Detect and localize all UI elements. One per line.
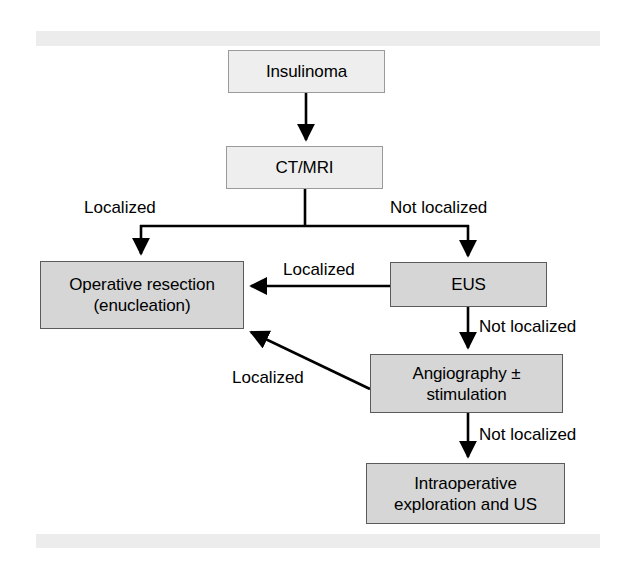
figure-canvas: Insulinoma CT/MRI Operative resection (e… xyxy=(0,0,629,564)
node-eus[interactable]: EUS xyxy=(390,262,547,307)
node-intraoperative-exploration[interactable]: Intraoperative exploration and US xyxy=(366,463,565,524)
edge-label-ctmri-not-localized: Not localized xyxy=(390,198,487,218)
node-operative-resection[interactable]: Operative resection (enucleation) xyxy=(40,261,244,329)
node-operative-resection-line2: (enucleation) xyxy=(94,296,191,315)
node-angiography-line1: Angiography ± xyxy=(412,364,520,383)
node-angiography-label: Angiography ± stimulation xyxy=(412,363,520,405)
node-angiography-line2: stimulation xyxy=(426,385,506,404)
node-intraoperative-line1: Intraoperative xyxy=(414,474,517,493)
node-ctmri[interactable]: CT/MRI xyxy=(226,146,383,189)
node-ctmri-label: CT/MRI xyxy=(276,157,334,178)
node-operative-resection-line1: Operative resection xyxy=(69,275,215,294)
bottom-background-band xyxy=(36,534,600,548)
node-insulinoma[interactable]: Insulinoma xyxy=(228,50,385,93)
edge-label-angiography-localized: Localized xyxy=(232,368,304,388)
node-intraoperative-exploration-label: Intraoperative exploration and US xyxy=(394,473,537,515)
node-eus-label: EUS xyxy=(451,274,486,295)
edge-label-eus-not-localized: Not localized xyxy=(479,317,576,337)
edge-label-ctmri-localized: Localized xyxy=(84,198,156,218)
top-background-band xyxy=(36,31,600,46)
edge-label-eus-localized: Localized xyxy=(283,260,355,280)
edge-label-angiography-not-localized: Not localized xyxy=(479,425,576,445)
node-operative-resection-label: Operative resection (enucleation) xyxy=(69,274,215,316)
node-angiography[interactable]: Angiography ± stimulation xyxy=(370,354,563,413)
node-insulinoma-label: Insulinoma xyxy=(266,61,347,82)
node-intraoperative-line2: exploration and US xyxy=(394,495,537,514)
